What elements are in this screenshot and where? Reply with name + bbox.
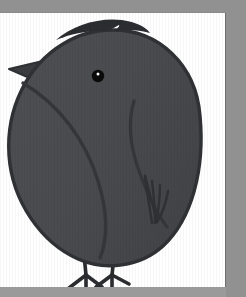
artboard-canvas	[0, 13, 226, 287]
screenshot-root: A plump round dark-gray bird in side pro…	[0, 0, 246, 297]
bird-illustration	[0, 13, 226, 287]
bottom-background-band	[0, 287, 246, 297]
eye	[92, 70, 104, 82]
right-background-gutter	[226, 0, 246, 297]
top-background-band	[0, 0, 246, 13]
eye-highlight	[97, 73, 100, 76]
